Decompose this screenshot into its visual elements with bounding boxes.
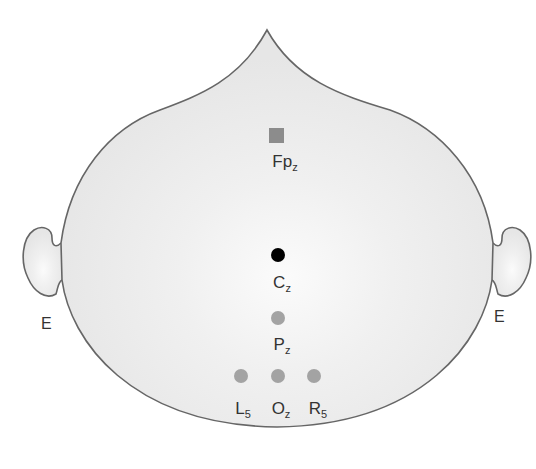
label-subscript: z [292, 161, 298, 173]
electrode-r5-label: R5 [309, 400, 327, 420]
label-base: R [309, 399, 321, 418]
electrode-l5-marker [234, 369, 248, 383]
electrode-cz-label: Cz [273, 274, 291, 294]
left-ear-label: E [41, 316, 52, 332]
right-ear [492, 228, 531, 296]
label-subscript: z [285, 282, 291, 294]
electrode-pz-marker [271, 311, 285, 325]
electrode-oz-label: Oz [272, 400, 291, 420]
label-base: O [272, 399, 285, 418]
label-base: C [273, 273, 285, 292]
electrode-fpz-marker [269, 128, 284, 143]
electrode-oz-marker [271, 369, 285, 383]
label-subscript: 5 [321, 408, 327, 420]
electrode-cz-marker [271, 248, 285, 262]
label-subscript: z [285, 408, 291, 420]
head-outline [61, 30, 493, 427]
electrode-r5-marker [307, 369, 321, 383]
label-base: Fp [272, 152, 292, 171]
left-ear [23, 228, 62, 296]
label-subscript: z [285, 344, 291, 356]
head-diagram [0, 0, 536, 469]
label-subscript: 5 [245, 408, 251, 420]
right-ear-label: E [494, 309, 505, 325]
electrode-l5-label: L5 [235, 400, 251, 420]
electrode-pz-label: Pz [274, 336, 291, 356]
label-base: P [274, 335, 285, 354]
electrode-fpz-label: Fpz [272, 153, 297, 173]
